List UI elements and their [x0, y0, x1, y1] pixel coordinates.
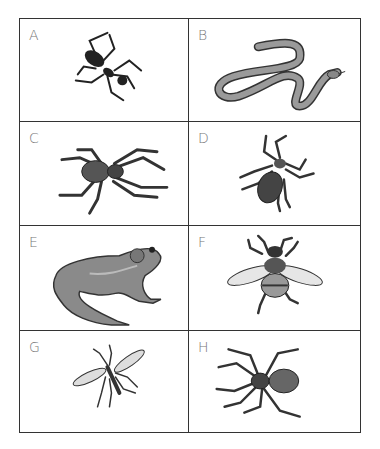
spider-icon [189, 331, 360, 432]
card-b: B [189, 19, 360, 122]
card-e: E [20, 226, 189, 331]
spider-icon [20, 122, 188, 225]
animal-card-grid: A B C [19, 18, 361, 433]
bee-icon [189, 226, 360, 330]
card-c: C [20, 122, 189, 226]
card-d: D [189, 122, 360, 226]
card-g: G [20, 331, 189, 432]
ant-icon [20, 19, 188, 121]
tick-icon [189, 122, 360, 225]
card-f: F [189, 226, 360, 331]
frog-icon [20, 226, 188, 330]
snake-icon [189, 19, 360, 121]
card-a: A [20, 19, 189, 122]
card-h: H [189, 331, 360, 432]
mosquito-icon [20, 331, 188, 432]
